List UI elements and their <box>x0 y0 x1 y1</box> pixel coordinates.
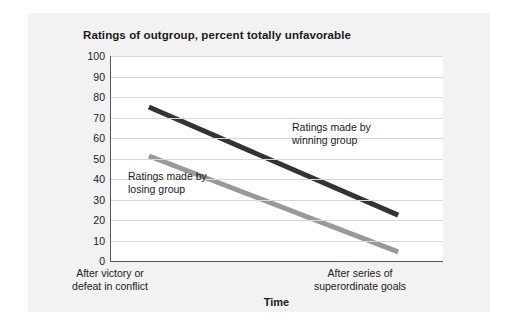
gridline <box>111 220 443 221</box>
annotation-winning-group: Ratings made by winning group <box>292 121 371 148</box>
x-axis-title: Time <box>110 296 443 308</box>
y-axis-tick-label: 30 <box>93 194 105 206</box>
gridline <box>111 77 443 78</box>
xtick-left-line1: After victory or <box>44 267 176 280</box>
y-axis-tick-label: 100 <box>87 50 105 62</box>
gridline <box>111 118 443 119</box>
gridline <box>111 200 443 201</box>
y-axis-tick-label: 70 <box>93 112 105 124</box>
annotation-losing-group: Ratings made by losing group <box>128 170 207 197</box>
xtick-label-left: After victory or defeat in conflict <box>44 267 176 294</box>
xtick-label-right: After series of superordinate goals <box>280 267 440 294</box>
annotation-winning-line2: winning group <box>292 134 371 147</box>
figure-card: Ratings of outgroup, percent totally unf… <box>28 13 490 312</box>
gridline <box>111 56 443 57</box>
annotation-losing-line1: Ratings made by <box>128 170 207 183</box>
y-axis-tick-label: 60 <box>93 132 105 144</box>
gridline <box>111 241 443 242</box>
y-axis-tick-label: 20 <box>93 214 105 226</box>
y-axis-tick-label: 50 <box>93 153 105 165</box>
y-axis-tick-label: 90 <box>93 71 105 83</box>
gridline <box>111 97 443 98</box>
y-axis-tick-label: 80 <box>93 91 105 103</box>
y-axis-tick-label: 40 <box>93 173 105 185</box>
xtick-left-line2: defeat in conflict <box>44 280 176 293</box>
gridline <box>111 138 443 139</box>
y-axis-tick-label: 0 <box>99 255 105 267</box>
gridline <box>111 159 443 160</box>
xtick-right-line1: After series of <box>280 267 440 280</box>
annotation-winning-line1: Ratings made by <box>292 121 371 134</box>
chart-title: Ratings of outgroup, percent totally unf… <box>83 29 351 41</box>
xtick-right-line2: superordinate goals <box>280 280 440 293</box>
y-axis-tick-label: 10 <box>93 235 105 247</box>
annotation-losing-line2: losing group <box>128 183 207 196</box>
plot-area: 0102030405060708090100 <box>110 56 443 262</box>
